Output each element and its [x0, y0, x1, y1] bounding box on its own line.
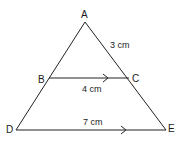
measure-bc: 4 cm — [82, 84, 102, 94]
label-b: B — [38, 74, 45, 85]
side-ad — [16, 22, 85, 130]
label-e: E — [168, 123, 175, 134]
side-ae — [85, 22, 166, 130]
label-a: A — [81, 9, 88, 20]
label-c: C — [132, 73, 139, 84]
label-d: D — [6, 124, 13, 135]
triangle-diagram: A B C D E 3 cm 4 cm 7 cm — [0, 0, 189, 143]
measure-de: 7 cm — [83, 117, 103, 127]
measure-ac: 3 cm — [110, 40, 130, 50]
